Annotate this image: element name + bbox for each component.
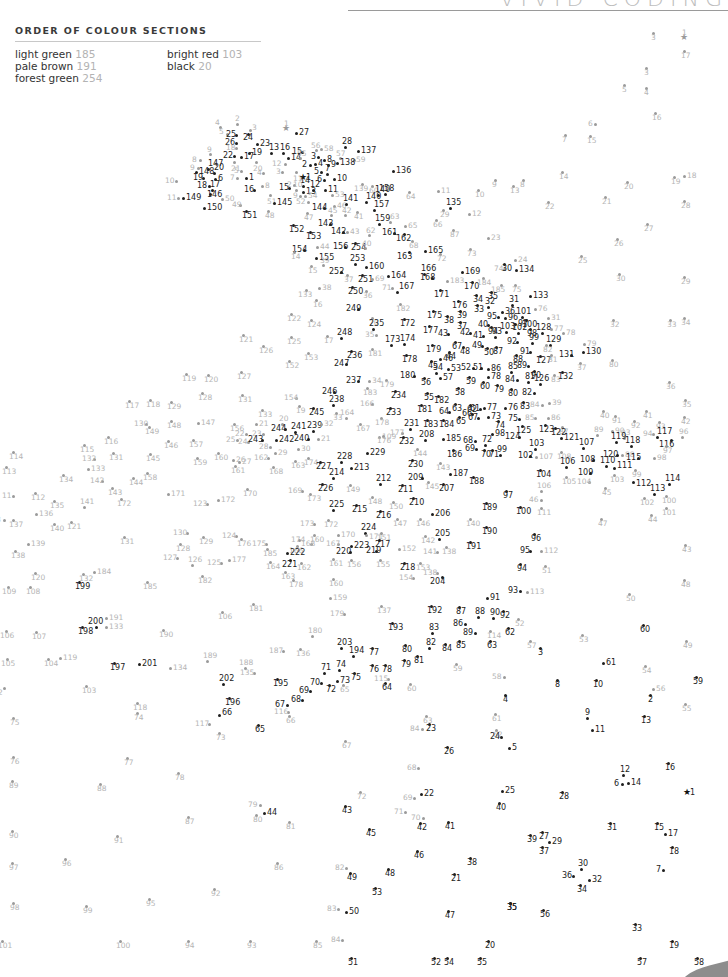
dot-number: 166	[421, 265, 436, 273]
dot-number: 45	[366, 830, 376, 838]
dot-number: 31	[551, 314, 561, 322]
dot-number: 42	[460, 329, 470, 337]
dot-number: 198	[78, 628, 93, 636]
dot-number: 133	[258, 411, 272, 419]
dot-number: 21	[451, 875, 461, 883]
dot-number: 86	[453, 620, 463, 628]
dot-marker	[550, 328, 553, 331]
dot-marker	[621, 454, 624, 457]
dot-marker	[621, 783, 624, 786]
dot-number: 174	[400, 335, 415, 343]
dot-number: 161	[382, 229, 397, 237]
dot-number: 64	[439, 408, 449, 416]
dot-marker	[548, 841, 551, 844]
dot-number: 91	[490, 594, 500, 602]
dot-number: 78	[382, 666, 392, 674]
dot-marker	[318, 287, 321, 290]
dot-marker	[297, 448, 300, 451]
dot-number: 226	[318, 485, 333, 493]
dot-number: 38	[467, 859, 477, 867]
dot-number: 224	[361, 524, 376, 532]
dot-number: 89	[463, 629, 473, 637]
dot-marker	[309, 164, 312, 167]
dot-number: 182	[198, 577, 212, 585]
dot-number: 209	[408, 474, 423, 482]
dot-number: 61	[606, 659, 616, 667]
dot-number: 87	[185, 818, 195, 826]
dot-marker	[138, 663, 141, 666]
dot-number: 39	[552, 399, 562, 407]
dot-marker	[259, 804, 262, 807]
dot-marker	[240, 170, 243, 173]
dot-number: 241	[291, 423, 306, 431]
dot-number: 137	[361, 147, 376, 155]
dot-number: 46	[529, 496, 539, 504]
dot-number: 245	[309, 409, 324, 417]
dot-number: 188	[469, 478, 484, 486]
dot-number: 67	[342, 742, 352, 750]
dot-number: 43	[438, 330, 448, 338]
dot-marker	[541, 404, 544, 407]
dot-number: 177	[423, 327, 438, 335]
dot-number: 113	[2, 468, 16, 476]
dot-number: 196	[225, 699, 240, 707]
dot-number: 171	[171, 490, 185, 498]
dot-number: 128	[536, 324, 551, 332]
dot-marker	[424, 250, 427, 253]
dot-number: 137	[9, 521, 23, 529]
dot-number: 38	[444, 317, 454, 325]
dot-number: 36	[363, 292, 373, 300]
dot-number: 225	[329, 501, 344, 509]
dot-number: 20	[624, 183, 634, 191]
dot-number: 138	[11, 552, 25, 560]
dot-number: 80	[253, 816, 263, 824]
dot-marker	[487, 416, 490, 419]
dot-number: 21	[602, 198, 612, 206]
dot-number: 126	[534, 375, 549, 383]
dot-number: 2	[235, 115, 240, 123]
dot-number: 178	[375, 419, 389, 427]
dot-number: 18	[669, 848, 679, 856]
dot-number: 100	[516, 508, 531, 516]
dot-number: 13	[269, 144, 279, 152]
dot-number: 112	[544, 547, 558, 555]
dot-number: 14	[291, 253, 301, 261]
dot-number: 143	[108, 489, 122, 497]
dot-number: 185	[263, 550, 277, 558]
dot-number: 101	[662, 509, 676, 517]
dot-number: 58	[455, 389, 465, 397]
dot-number: 152	[402, 545, 416, 553]
dot-number: 138	[423, 569, 437, 577]
dot-number: 93	[508, 587, 518, 595]
dot-marker	[337, 534, 340, 537]
dot-marker	[336, 680, 339, 683]
dot-number: 69	[403, 794, 413, 802]
dot-number: 162	[254, 454, 268, 462]
dot-number: 161	[329, 560, 343, 568]
dot-marker	[439, 377, 442, 380]
dot-marker	[333, 178, 336, 181]
dot-marker	[560, 437, 563, 440]
dot-number: 154	[399, 574, 413, 582]
dot-number: 141	[423, 548, 437, 556]
dot-marker	[329, 597, 332, 600]
dot-number: 89	[9, 782, 19, 790]
dot-number: 193	[388, 624, 403, 632]
dot-marker	[228, 559, 231, 562]
dot-number: 26	[614, 240, 624, 248]
dot-number: 134	[173, 664, 187, 672]
dot-number: 103	[82, 687, 96, 695]
dot-number: 8	[520, 181, 525, 189]
dot-number: 45	[328, 207, 338, 215]
dot-number: 47	[598, 520, 608, 528]
dot-number: 52	[431, 959, 441, 967]
dot-number: 48	[265, 212, 275, 220]
dot-number: 169	[465, 268, 480, 276]
dot-number: 50	[349, 908, 359, 916]
dot-number: 184	[439, 421, 454, 429]
dot-number: 39	[457, 312, 467, 320]
dot-number: 144	[312, 204, 327, 212]
dot-number: 53	[451, 365, 461, 373]
dot-number: 141	[80, 498, 94, 506]
dot-number: 89	[594, 426, 604, 434]
